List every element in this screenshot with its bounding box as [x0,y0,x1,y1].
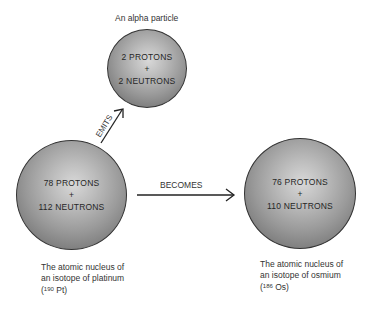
arrows-layer [0,0,374,311]
becomes-arrow-icon [137,189,234,201]
becomes-label: BECOMES [160,180,203,190]
